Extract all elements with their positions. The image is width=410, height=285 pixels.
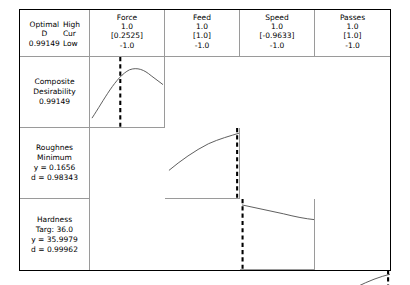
level-legend-line: Low xyxy=(63,39,80,49)
response-optimizer-plot: OptimalD0.99149HighCurLowForce1.0[0.2525… xyxy=(19,9,391,271)
factor-name: Feed xyxy=(165,13,239,22)
response-curve xyxy=(242,205,314,220)
response-curve xyxy=(169,133,239,170)
optimal-desirability: OptimalD0.99149 xyxy=(29,20,63,49)
factor-header-passes: Passes1.0[1.0]-1.0 xyxy=(315,10,390,57)
optimal-summary-cell: OptimalD0.99149HighCurLow xyxy=(20,10,90,57)
response-label-2: HardnessTarg: 36.0y = 35.9979d = 0.99962 xyxy=(20,199,90,270)
response-label-line: y = 35.9979 xyxy=(31,235,78,245)
factor-header-text: Force1.0[0.2525]-1.0 xyxy=(90,10,164,50)
response-label-line: 0.99149 xyxy=(39,97,70,107)
response-label-line: d = 0.99962 xyxy=(31,245,78,255)
factor-header-feed: Feed1.0[1.0]-1.0 xyxy=(165,10,240,57)
level-legend-line: Cur xyxy=(63,29,80,39)
factor-low-value: -1.0 xyxy=(165,41,239,50)
optimizer-grid: OptimalD0.99149HighCurLowForce1.0[0.2525… xyxy=(20,10,390,270)
response-curve xyxy=(319,274,390,285)
response-label-line: Composite xyxy=(34,77,74,87)
plot-cell-composite-desirability-feed xyxy=(165,128,240,199)
response-label-line: Desirability xyxy=(33,87,75,97)
response-label-line: Roughnes xyxy=(36,143,73,153)
factor-low-value: -1.0 xyxy=(90,41,164,50)
optimal-line: 0.99149 xyxy=(29,39,60,49)
response-label-1: RoughnesMinimumy = 0.1656d = 0.98343 xyxy=(20,128,90,199)
plot-cell-composite-desirability-force xyxy=(90,57,165,128)
factor-high-value: 1.0 xyxy=(165,22,239,31)
factor-high-value: 1.0 xyxy=(315,22,390,31)
factor-name: Force xyxy=(90,13,164,22)
factor-header-text: Speed1.0[-0.9633]-1.0 xyxy=(240,10,314,50)
factor-low-value: -1.0 xyxy=(240,41,314,50)
factor-header-text: Feed1.0[1.0]-1.0 xyxy=(165,10,239,50)
factor-header-text: Passes1.0[1.0]-1.0 xyxy=(315,10,390,50)
plot-cell-composite-desirability-speed xyxy=(240,199,315,270)
response-label-line: Hardness xyxy=(37,215,72,225)
factor-header-force: Force1.0[0.2525]-1.0 xyxy=(90,10,165,57)
factor-name: Speed xyxy=(240,13,314,22)
factor-high-value: 1.0 xyxy=(90,22,164,31)
factor-current-value: [0.2525] xyxy=(90,31,164,40)
plot-cell-composite-desirability-passes xyxy=(315,270,390,285)
optimal-line: Optimal xyxy=(29,20,60,30)
response-label-line: y = 0.1656 xyxy=(34,163,76,173)
response-label-0: CompositeDesirability0.99149 xyxy=(20,57,90,128)
factor-current-value: [1.0] xyxy=(315,31,390,40)
response-label-line: Targ: 36.0 xyxy=(36,225,73,235)
response-label-line: Minimum xyxy=(37,153,72,163)
response-curve xyxy=(92,69,163,118)
level-legend: HighCurLow xyxy=(63,20,80,49)
optimal-line: D xyxy=(29,29,60,39)
response-label-line: d = 0.98343 xyxy=(31,173,78,183)
factor-name: Passes xyxy=(315,13,390,22)
factor-low-value: -1.0 xyxy=(315,41,390,50)
factor-current-value: [1.0] xyxy=(165,31,239,40)
level-legend-line: High xyxy=(63,20,80,30)
factor-current-value: [-0.9633] xyxy=(240,31,314,40)
factor-high-value: 1.0 xyxy=(240,22,314,31)
factor-header-speed: Speed1.0[-0.9633]-1.0 xyxy=(240,10,315,57)
